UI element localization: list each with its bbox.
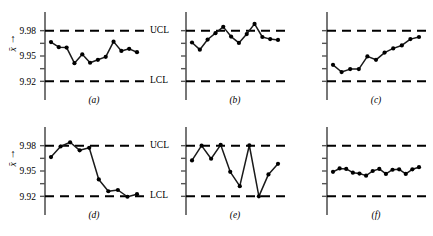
data-point xyxy=(383,51,387,55)
data-point xyxy=(78,148,82,152)
panel-caption-a: (a) xyxy=(79,95,109,105)
data-point xyxy=(338,166,342,170)
data-point xyxy=(206,37,210,41)
data-point xyxy=(57,45,61,49)
data-point xyxy=(116,188,120,192)
chart-panel-f xyxy=(285,123,429,219)
data-point xyxy=(357,67,361,71)
data-point xyxy=(111,40,115,44)
data-point xyxy=(252,22,256,26)
data-point xyxy=(365,54,369,58)
chart-panel-a: 9.989.959.92 xyxy=(3,8,147,104)
data-point xyxy=(357,171,361,175)
data-point xyxy=(229,34,233,38)
data-point xyxy=(257,194,261,198)
data-point xyxy=(247,143,251,147)
data-point xyxy=(199,144,203,148)
data-point xyxy=(417,35,421,39)
data-point xyxy=(125,195,129,199)
lower-control-limit-label-a: LCL xyxy=(150,75,168,85)
data-point xyxy=(371,169,375,173)
data-point xyxy=(80,52,84,56)
data-point xyxy=(410,167,414,171)
data-point xyxy=(417,165,421,169)
data-point xyxy=(68,140,72,144)
data-point xyxy=(106,189,110,193)
series-line-a xyxy=(51,42,137,64)
data-point xyxy=(331,170,335,174)
data-point xyxy=(237,41,241,45)
data-point xyxy=(374,58,378,62)
data-point xyxy=(400,43,404,47)
control-chart-figure: 9.989.959.929.989.959.92UCLLCLUCLLCL↑x̄↑… xyxy=(0,0,433,236)
chart-panel-c xyxy=(285,8,429,104)
data-point xyxy=(213,31,217,35)
panel-caption-d: (d) xyxy=(79,210,109,220)
data-point xyxy=(391,46,395,50)
data-point xyxy=(65,45,69,49)
data-point xyxy=(384,172,388,176)
y-axis-tick-label: 9.92 xyxy=(19,192,36,202)
upper-control-limit-label-a: UCL xyxy=(150,25,169,35)
data-point xyxy=(104,55,108,59)
data-point xyxy=(221,25,225,29)
data-point xyxy=(88,61,92,65)
chart-panel-d: 9.989.959.92 xyxy=(3,123,147,219)
series-line-d xyxy=(51,142,137,196)
data-point xyxy=(135,50,139,54)
y-axis-xbar-symbol: x̄ xyxy=(8,37,19,63)
y-axis-xbar-symbol: x̄ xyxy=(8,152,19,178)
data-point xyxy=(190,40,194,44)
data-point xyxy=(49,155,53,159)
data-point xyxy=(260,35,264,39)
data-point xyxy=(72,61,76,65)
data-point xyxy=(97,177,101,181)
data-point xyxy=(209,157,213,161)
series-line-e xyxy=(192,145,278,197)
data-point xyxy=(119,49,123,53)
data-point xyxy=(266,172,270,176)
data-point xyxy=(228,170,232,174)
data-point xyxy=(276,162,280,166)
data-point xyxy=(397,167,401,171)
data-point xyxy=(268,37,272,41)
data-point xyxy=(344,167,348,171)
data-point xyxy=(351,171,355,175)
data-point xyxy=(219,143,223,147)
data-point xyxy=(135,192,139,196)
data-point xyxy=(364,174,368,178)
data-point xyxy=(198,48,202,52)
data-point xyxy=(245,32,249,36)
series-line-c xyxy=(333,37,419,72)
data-point xyxy=(331,63,335,67)
panel-caption-f: (f) xyxy=(361,210,391,220)
upper-control-limit-label-d: UCL xyxy=(150,140,169,150)
y-axis-label-bottom: ↑x̄ xyxy=(0,149,26,170)
panel-caption-c: (c) xyxy=(361,95,391,105)
data-point xyxy=(127,47,131,51)
data-point xyxy=(276,38,280,42)
panel-caption-b: (b) xyxy=(220,95,250,105)
panel-caption-e: (e) xyxy=(220,210,250,220)
data-point xyxy=(49,40,53,44)
y-axis-label-top: ↑x̄ xyxy=(0,34,26,55)
panel-grid: 9.989.959.929.989.959.92UCLLCLUCLLCL↑x̄↑… xyxy=(0,0,433,236)
data-point xyxy=(377,167,381,171)
data-point xyxy=(190,158,194,162)
data-point xyxy=(390,168,394,172)
data-point xyxy=(404,172,408,176)
data-point xyxy=(96,58,100,62)
lower-control-limit-label-d: LCL xyxy=(150,190,168,200)
series-line-b xyxy=(192,24,278,50)
data-point xyxy=(348,67,352,71)
data-point xyxy=(87,146,91,150)
data-point xyxy=(340,70,344,74)
chart-panel-b xyxy=(144,8,288,104)
data-point xyxy=(408,37,412,41)
chart-panel-e xyxy=(144,123,288,219)
data-point xyxy=(58,144,62,148)
data-point xyxy=(238,184,242,188)
y-axis-tick-label: 9.92 xyxy=(19,77,36,87)
